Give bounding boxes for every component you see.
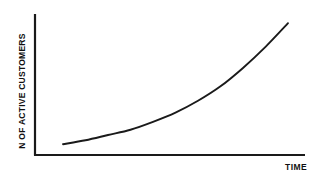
growth-curve-line <box>63 23 288 144</box>
y-axis-label: N OF ACTIVE CUSTOMERS <box>18 20 31 162</box>
chart-plot-area <box>0 0 333 182</box>
x-axis-label: TIME <box>285 163 307 172</box>
chart-container: N OF ACTIVE CUSTOMERS TIME <box>0 0 333 182</box>
